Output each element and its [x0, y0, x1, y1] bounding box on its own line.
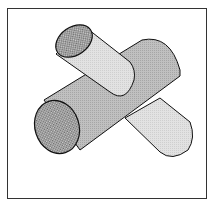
intersecting-cylinders-diagram	[0, 0, 211, 209]
